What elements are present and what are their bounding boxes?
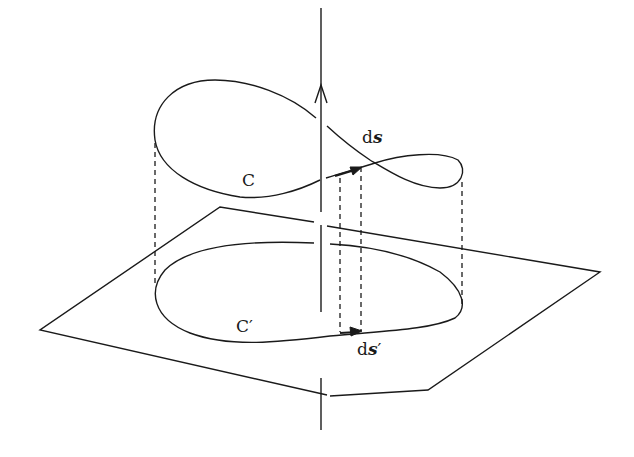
label-ds-prime: ds′ [357,341,381,358]
plane-right-edges [327,226,600,396]
label-ds: ds [362,129,382,146]
label-curve-c-prime: C′ [236,318,253,335]
ds-prime-arrowhead-icon [350,327,362,336]
plane-left-edges [40,207,327,395]
curve-c-after-axis [326,126,463,188]
diagram-canvas: C ds C′ ds′ [0,0,634,457]
curve-c-lobe-upper [154,80,320,198]
projected-curve-c-prime [155,242,462,342]
label-curve-c: C [242,172,255,189]
diagram-svg [0,0,634,457]
ds-arrowhead-icon [350,167,362,175]
